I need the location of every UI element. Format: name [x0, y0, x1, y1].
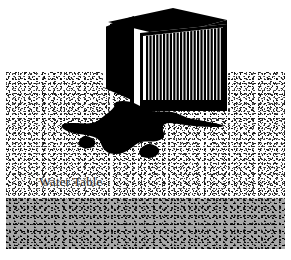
tank-left-face	[104, 16, 134, 101]
storage-tank	[96, 8, 228, 120]
saturated-zone	[6, 199, 285, 249]
water-table-label: Water Table	[39, 176, 102, 189]
tank-fins	[146, 28, 223, 100]
tank-left-frame-edge	[103, 24, 106, 88]
tank-front-right-rail	[223, 25, 227, 108]
tank-underside	[140, 104, 227, 111]
diagram-canvas: Water Table	[0, 0, 291, 260]
